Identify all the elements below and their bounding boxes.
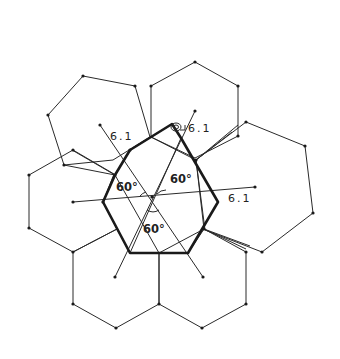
length-label-right: 6.1 — [228, 192, 252, 205]
angle-label-bottom: 60° — [143, 222, 165, 236]
diagram-canvas: 6.1 6.1 6.1 60° 60° 60° — [0, 0, 340, 359]
length-label-top-left: 6.1 — [110, 130, 134, 143]
hexagon-top-left — [48, 76, 150, 165]
hexagon-bottom-left — [73, 229, 159, 328]
angle-label-left: 60° — [116, 180, 138, 194]
angle-label-right: 60° — [170, 172, 192, 186]
length-label-top-right: 6.1 — [188, 122, 212, 135]
vertex-points — [27, 60, 314, 329]
geometry-figure: 6.1 6.1 6.1 60° 60° 60° — [0, 0, 340, 359]
